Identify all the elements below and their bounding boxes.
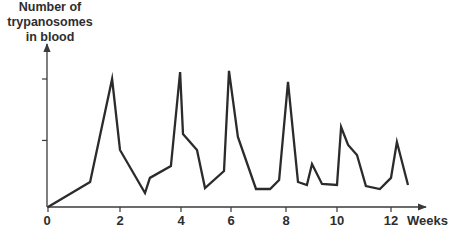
series-line [48,71,408,207]
x-tick-label: 4 [177,213,185,228]
x-tick-label: 8 [282,213,289,228]
y-ticks [42,79,47,140]
x-tick-label: 2 [116,213,123,228]
x-tick-label: 12 [384,213,398,228]
line-chart: 246810120 Weeks [0,0,455,230]
x-tick-label-origin: 0 [43,213,50,228]
x-tick-label: 6 [227,213,234,228]
x-axis-label: Weeks [407,213,448,228]
x-tick-label: 10 [330,213,344,228]
x-ticks: 246810120 [43,207,398,228]
